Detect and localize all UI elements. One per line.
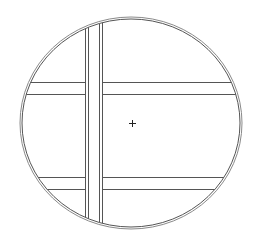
- center-cross-icon: [129, 120, 136, 127]
- technical-drawing: [0, 0, 254, 245]
- vertical-strip: [86, 0, 103, 245]
- drawing-canvas: [0, 0, 254, 245]
- horizontal-bands: [0, 83, 254, 190]
